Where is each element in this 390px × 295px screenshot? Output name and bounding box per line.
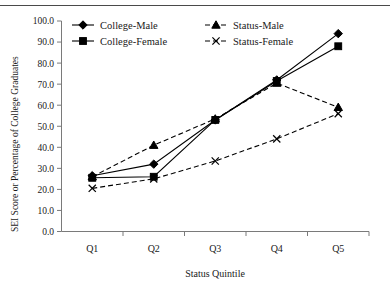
- data-point-marker: [334, 103, 342, 110]
- y-tick-label: 30.0: [37, 164, 54, 174]
- legend-marker-icon: [79, 21, 87, 29]
- data-point-marker: [212, 157, 219, 164]
- series-college-male: [88, 29, 342, 179]
- x-axis-title-text: Status Quintile: [185, 268, 245, 279]
- x-tick-label: Q5: [332, 243, 344, 254]
- y-tick-label: 100.0: [33, 16, 55, 26]
- x-tick-label: Q4: [271, 243, 283, 254]
- data-point-marker: [273, 135, 280, 142]
- legend-item[interactable]: College-Male: [72, 20, 158, 31]
- y-tick-label: 60.0: [37, 101, 54, 111]
- data-point-marker: [150, 141, 158, 148]
- legend-item[interactable]: Status-Male: [205, 20, 284, 31]
- x-axis-ticks: Q1Q2Q3Q4Q5: [86, 232, 369, 255]
- chart-legend: College-MaleCollege-FemaleStatus-MaleSta…: [72, 20, 293, 47]
- data-point-marker: [150, 160, 158, 168]
- data-point-marker: [335, 110, 342, 117]
- data-point-marker: [335, 43, 342, 50]
- legend-item-label: Status-Male: [233, 20, 284, 31]
- x-tick-label: Q2: [148, 243, 160, 254]
- legend-marker-icon: [80, 38, 87, 45]
- series-line: [92, 83, 338, 177]
- y-tick-label: 90.0: [37, 37, 54, 47]
- y-tick-label: 70.0: [37, 80, 54, 90]
- y-tick-label: 40.0: [37, 143, 54, 153]
- legend-item-label: Status-Female: [233, 36, 293, 47]
- y-tick-label: 50.0: [37, 122, 54, 132]
- y-axis-title-text: SEI Score or Percentage of College Gradu…: [10, 56, 20, 232]
- legend-item[interactable]: College-Female: [72, 36, 167, 47]
- series-line: [92, 34, 338, 176]
- y-axis-title: SEI Score or Percentage of College Gradu…: [10, 56, 20, 232]
- data-series-layer: [88, 29, 342, 192]
- y-tick-label: 20.0: [37, 185, 54, 195]
- line-chart-svg: SEI Score or Percentage of College Gradu…: [0, 0, 390, 295]
- legend-item-label: College-Female: [100, 36, 167, 47]
- y-axis-ticks: 0.010.020.030.040.050.060.070.080.090.01…: [33, 16, 62, 237]
- y-tick-label: 0.0: [42, 227, 54, 237]
- legend-item-label: College-Male: [100, 20, 158, 31]
- y-tick-label: 80.0: [37, 59, 54, 69]
- chart-figure: SEI Score or Percentage of College Gradu…: [0, 0, 390, 295]
- y-axis: 0.010.020.030.040.050.060.070.080.090.01…: [33, 16, 62, 237]
- series-status-male: [88, 79, 342, 180]
- y-tick-label: 10.0: [37, 206, 54, 216]
- x-tick-label: Q1: [86, 243, 98, 254]
- x-axis: Q1Q2Q3Q4Q5 Status Quintile: [62, 232, 370, 280]
- data-point-marker: [334, 29, 342, 37]
- legend-item[interactable]: Status-Female: [205, 36, 293, 47]
- x-tick-label: Q3: [209, 243, 221, 254]
